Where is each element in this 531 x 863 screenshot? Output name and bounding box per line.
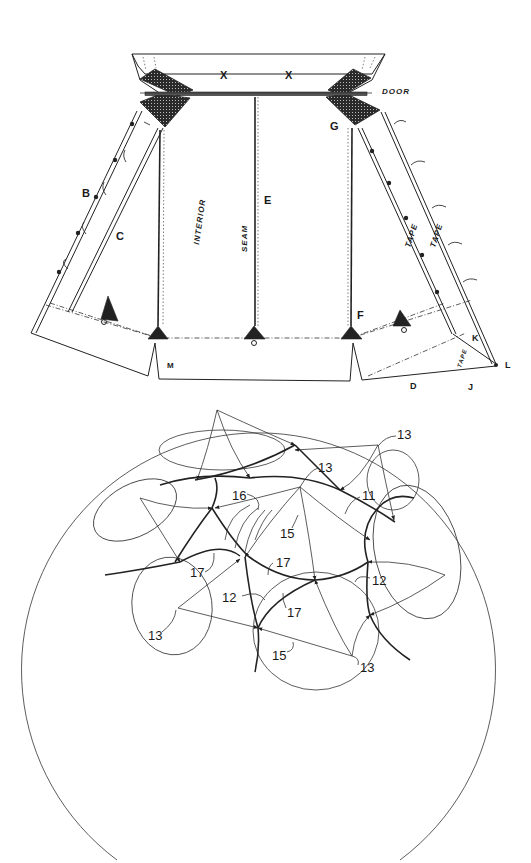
label-b: B xyxy=(82,187,90,199)
numeral-17-lower: 17 xyxy=(287,605,301,620)
numeral-15-center: 15 xyxy=(280,526,294,541)
left-wing-panel: B C xyxy=(31,111,163,376)
numeral-17-left: 17 xyxy=(190,565,204,580)
loop-network-figure: 13 13 11 16 15 17 17 17 12 12 13 15 13 xyxy=(22,410,496,860)
patent-drawing-sheet: X X DOOR INTERIOR SEAM E G F xyxy=(0,0,531,863)
label-m: M xyxy=(167,361,174,370)
numeral-12-left: 12 xyxy=(222,590,236,605)
numeral-12-right: 12 xyxy=(372,573,386,588)
numeral-15-lower: 15 xyxy=(272,648,286,663)
label-g: G xyxy=(330,120,339,132)
numeral-13-bottom: 13 xyxy=(360,660,374,675)
label-k: K xyxy=(472,333,479,343)
tent-pattern-figure: X X DOOR INTERIOR SEAM E G F xyxy=(31,54,511,392)
label-seam: SEAM xyxy=(240,225,249,252)
label-door: DOOR xyxy=(382,87,410,96)
label-f: F xyxy=(357,309,364,321)
label-e: E xyxy=(264,194,271,206)
numeral-13-left: 13 xyxy=(148,628,162,643)
numeral-13-center: 13 xyxy=(318,460,332,475)
label-interior: INTERIOR xyxy=(192,198,207,245)
numeral-17-center: 17 xyxy=(276,555,290,570)
right-wing-panel: TAPE TAPE TAPE K L D J xyxy=(351,112,511,392)
label-tape-2: TAPE xyxy=(428,222,444,248)
label-c: C xyxy=(116,230,124,242)
numeral-13-top-right: 13 xyxy=(397,427,411,442)
label-j: J xyxy=(468,382,473,392)
numeral-16: 16 xyxy=(232,488,246,503)
label-d: D xyxy=(410,381,417,391)
numeral-11: 11 xyxy=(362,488,376,503)
reference-numerals: 13 13 11 16 15 17 17 17 12 12 13 15 13 xyxy=(148,427,411,675)
label-x-right: X xyxy=(285,69,293,81)
label-x-left: X xyxy=(220,69,228,81)
label-l: L xyxy=(505,360,511,370)
label-tape-1: TAPE xyxy=(403,222,419,248)
label-tape-3: TAPE xyxy=(456,348,468,368)
netting-top-left-lower xyxy=(140,94,190,127)
stake-pegs xyxy=(101,296,411,346)
